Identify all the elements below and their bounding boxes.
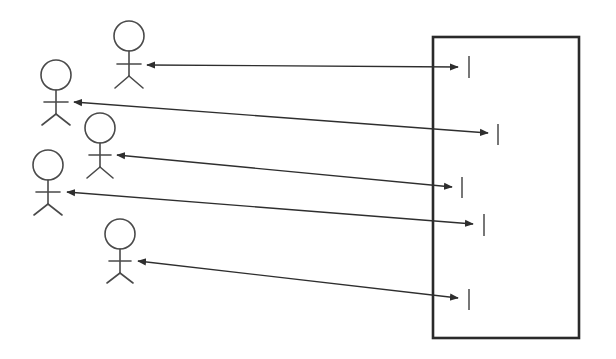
- actors-layer: [33, 21, 144, 283]
- actor-right-leg: [100, 167, 113, 178]
- bidirectional-arrow-1: [147, 65, 458, 67]
- connections-layer: [67, 65, 488, 298]
- actor-stick-figure-icon: [41, 60, 71, 125]
- system-boundary-box: [433, 37, 579, 338]
- actor-left-leg: [34, 204, 48, 215]
- bidirectional-arrow-3: [117, 155, 452, 187]
- bidirectional-arrow-2: [74, 102, 488, 133]
- actor-right-leg: [48, 204, 62, 215]
- actor-stick-figure-icon: [33, 150, 63, 215]
- actor-left-leg: [115, 76, 129, 88]
- actor-head: [114, 21, 144, 51]
- bidirectional-arrow-4: [67, 192, 473, 224]
- actor-right-leg: [56, 114, 70, 125]
- actor-left-leg: [107, 273, 120, 283]
- ports-layer: [462, 56, 498, 310]
- actor-head: [105, 219, 135, 249]
- diagram-canvas: [0, 0, 616, 359]
- actor-left-leg: [87, 167, 100, 178]
- actor-stick-figure-icon: [114, 21, 144, 88]
- actor-head: [85, 113, 115, 143]
- bidirectional-arrow-5: [138, 261, 458, 298]
- actor-stick-figure-icon: [85, 113, 115, 178]
- actor-left-leg: [42, 114, 56, 125]
- actor-head: [33, 150, 63, 180]
- actor-head: [41, 60, 71, 90]
- actor-right-leg: [129, 76, 143, 88]
- diagram-svg: [0, 0, 616, 359]
- actor-stick-figure-icon: [105, 219, 135, 283]
- actor-right-leg: [120, 273, 133, 283]
